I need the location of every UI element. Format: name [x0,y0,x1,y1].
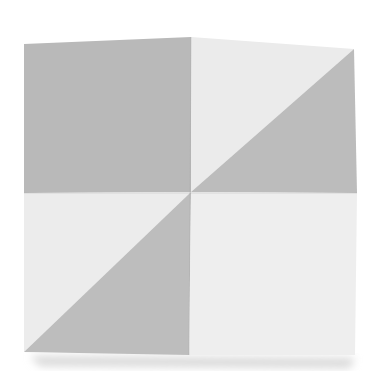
quadrant-top-left-dark [24,37,191,193]
paper-shadow [30,356,355,368]
folded-paper-illustration [0,0,375,385]
quadrant-bottom-right-light [189,192,357,355]
